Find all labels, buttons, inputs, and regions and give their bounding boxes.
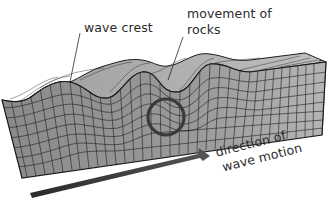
wave-block-diagram (0, 0, 333, 200)
movement-of-rocks-label-line1: movement of (187, 7, 272, 21)
movement-of-rocks-label-line2: rocks (187, 23, 221, 37)
wave-crest-label: wave crest (84, 21, 153, 35)
wave-crest-leader-line (70, 33, 80, 82)
